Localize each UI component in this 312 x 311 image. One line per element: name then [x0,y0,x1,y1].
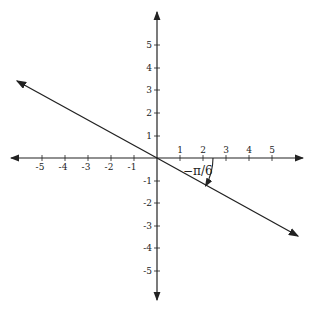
x-tick-label: 3 [223,145,229,155]
x-tick-label: 5 [269,145,275,155]
line-ray-upper-left [17,81,157,158]
y-tick-label: 3 [146,85,152,95]
coordinate-plane: -5 -4 -3 -2 -1 1 2 3 4 5 5 4 3 2 1 -1 -2… [0,0,312,311]
x-tick-label: -1 [128,162,137,172]
y-tick-label: 4 [146,63,152,73]
angle-label: −π/6 [183,164,213,178]
y-tick-label: 5 [146,40,152,50]
y-tick-label: -4 [143,243,152,253]
x-tick-label: -5 [36,162,45,172]
x-tick-label: 2 [200,145,206,155]
x-tick-label: -2 [105,162,114,172]
y-tick-label: -1 [143,176,152,186]
x-tick-label: -3 [82,162,91,172]
line-ray-lower-right [157,158,298,236]
y-tick-label: -2 [143,198,152,208]
x-tick-label: -4 [59,162,68,172]
y-tick-label: 2 [146,108,152,118]
y-tick-label: -5 [143,266,152,276]
x-tick-label: 4 [246,145,252,155]
x-tick-label: 1 [177,145,183,155]
y-tick-label: -3 [143,221,152,231]
y-tick-label: 1 [146,131,152,141]
